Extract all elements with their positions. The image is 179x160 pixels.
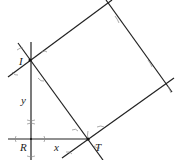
label-y: y	[20, 94, 26, 106]
square-top-right-edge	[106, 0, 172, 92]
point-R	[30, 138, 32, 140]
point-I	[29, 59, 32, 62]
square-top-left-edge	[8, 0, 112, 77]
square-bottom-edge	[62, 78, 174, 158]
label-x: x	[53, 141, 59, 153]
label-T: T	[95, 141, 102, 153]
construction-arcs	[12, 16, 171, 157]
construction-diagram: I R T y x	[0, 0, 179, 160]
label-R: R	[19, 141, 27, 153]
point-T	[87, 138, 90, 141]
